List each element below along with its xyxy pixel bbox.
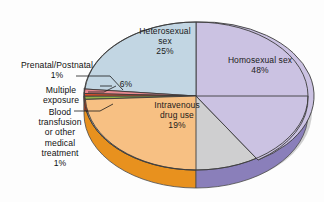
- callout-label-multiple-exposure: Multiple exposure: [24, 85, 98, 105]
- slice-label-heterosexual: Heterosexual sex 25%: [126, 26, 204, 56]
- slice-label-homosexual: Homosexual sex 48%: [212, 55, 308, 75]
- callout-label-prenatal: Prenatal/Postnatal 1%: [6, 60, 108, 80]
- pie-chart-figure: Heterosexual sex 25% Homosexual sex 48% …: [0, 0, 324, 202]
- slice-label-multiple-exposure-percent: 6%: [112, 79, 140, 89]
- callout-label-blood-transfusion: Blood transfusion or other medical treat…: [30, 107, 90, 168]
- slice-label-intravenous: Intravenous drug use 19%: [138, 100, 216, 130]
